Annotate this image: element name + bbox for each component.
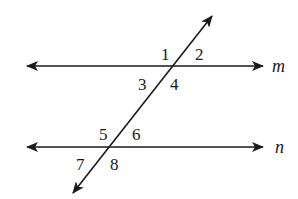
line-label-n: n [275,137,284,157]
angle-label-8: 8 [110,155,119,174]
diagram: m n 1 2 3 4 5 6 7 8 [0,0,298,199]
angle-label-6: 6 [132,125,141,144]
angle-label-7: 7 [76,155,85,174]
transversal-line [73,16,212,193]
angle-label-2: 2 [195,45,204,64]
angle-label-4: 4 [170,75,179,94]
angle-label-1: 1 [161,45,170,64]
angle-label-3: 3 [138,75,147,94]
line-label-m: m [272,56,285,76]
angle-label-5: 5 [99,125,108,144]
